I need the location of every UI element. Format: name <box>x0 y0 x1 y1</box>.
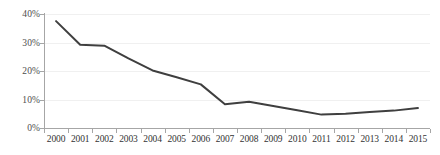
series-line <box>56 21 418 114</box>
line-chart: 40% 30% 20% 10% 0% 200020012002200320042… <box>0 0 440 155</box>
series-layer <box>0 0 440 155</box>
